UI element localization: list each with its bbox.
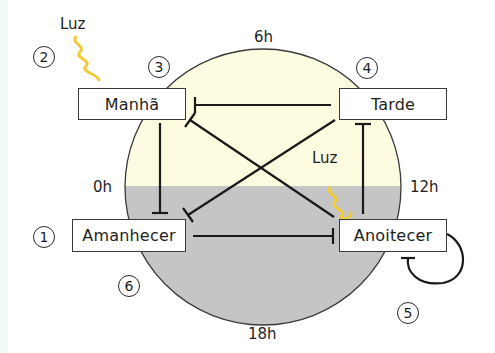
node-tarde: Tarde [339,88,447,120]
light-label-inner: Luz [312,151,337,166]
step-marker-5: 5 [397,302,419,324]
time-label-18h: 18h [248,327,277,342]
node-manha: Manhã [78,88,186,120]
step-marker-3: 3 [148,56,170,78]
step-marker-2: 2 [33,46,55,68]
step-marker-6: 6 [118,275,140,297]
node-anoitecer: Anoitecer [339,219,447,252]
node-amanhecer: Amanhecer [72,219,186,252]
step-marker-4: 4 [356,57,378,79]
time-label-0h: 0h [93,180,112,195]
time-label-6h: 6h [254,30,273,45]
light-label-outer: Luz [60,17,85,32]
step-marker-1: 1 [33,226,55,248]
clock-diagram [0,0,495,353]
light-wave-outer [75,37,99,80]
night-region [120,186,410,331]
time-label-12h: 12h [410,180,439,195]
